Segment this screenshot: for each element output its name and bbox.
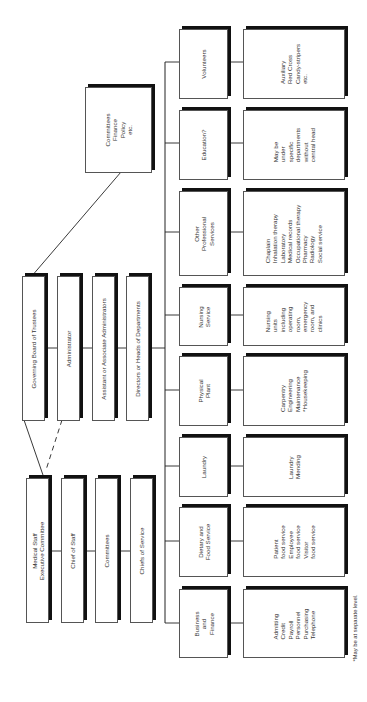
line: Laboratory <box>279 204 286 262</box>
line: under <box>279 128 286 162</box>
line: units <box>272 301 279 332</box>
committees-label: Committees <box>103 534 110 567</box>
line: Dietary and <box>196 524 203 560</box>
line: Telephone <box>309 608 316 639</box>
line: Carpentry <box>279 370 286 412</box>
line: Engineering <box>287 370 294 412</box>
line: Inhalation therapy <box>272 204 279 262</box>
dept-details: Laundry Mending <box>287 455 302 479</box>
footnote-text: *May be at separate level. <box>352 594 359 661</box>
administrator-box: Administrator <box>57 276 80 421</box>
administrator-label: Administrator <box>65 330 72 366</box>
line: Occupational therapy <box>294 204 301 262</box>
line: Education? <box>200 130 207 161</box>
line: Pharmacy <box>301 204 308 262</box>
line: Maintenance <box>294 370 301 412</box>
dept-details: Chaplain Inhalation therapy Laboratory M… <box>264 204 323 262</box>
line: Finance <box>111 113 118 146</box>
dept-name: Dietary and Food Service <box>196 524 211 560</box>
line: and <box>200 611 207 636</box>
line: Red Cross <box>287 44 294 84</box>
line: Volunteers <box>200 49 207 78</box>
dept-business-finance-box: Business and Finance <box>179 589 228 658</box>
line: without <box>301 128 308 162</box>
dept-dietary-details-box: Patient food service Employee food servi… <box>243 507 345 577</box>
line: Laundry <box>200 456 207 478</box>
dept-dietary-box: Dietary and Food Service <box>179 507 228 577</box>
line: Auxiliary <box>279 44 286 84</box>
line: Nursing <box>264 301 271 332</box>
line: Purchasing <box>301 608 308 639</box>
dept-name: Physical Plant <box>196 379 211 402</box>
committees-finance-box: Committees Finance Policy etc. <box>85 87 152 173</box>
dept-name: Volunteers <box>200 49 207 78</box>
line: Finance <box>207 611 214 636</box>
line: Social service <box>316 204 323 262</box>
line: Laundry <box>287 455 294 479</box>
dept-name: Education? <box>200 130 207 161</box>
dept-volunteers-box: Volunteers <box>179 29 228 99</box>
line: Medical Staff <box>30 521 37 579</box>
line: Executive Committee <box>38 521 45 579</box>
line: Food Service <box>204 524 211 560</box>
dept-laundry-box: Laundry <box>179 437 228 497</box>
assistant-administrators-label: Assistant or Associate Administrators <box>100 298 107 399</box>
line: Business <box>192 611 199 636</box>
line: clinics <box>316 301 323 332</box>
line: Patient <box>272 525 279 558</box>
footnote: *May be at separate level. <box>351 598 361 658</box>
line: including <box>279 301 286 332</box>
dept-details: Auxiliary Red Cross Candy-stripers etc. <box>279 44 309 84</box>
line: Committees <box>104 113 111 146</box>
line: Professional <box>200 216 207 250</box>
line: central head <box>309 128 316 162</box>
line: etc. <box>301 44 308 84</box>
line: Admitting <box>272 608 279 639</box>
governing-board-box: Governing Board of Trustees <box>22 276 45 421</box>
line: Candy-stripers <box>294 44 301 84</box>
chiefs-of-service-label: Chiefs of Service <box>138 527 145 574</box>
medical-staff-executive-committee-box: Medical Staff Executive Committee <box>26 478 49 623</box>
dept-details: Patient food service Employee food servi… <box>272 525 316 558</box>
line: specific <box>287 128 294 162</box>
directors-box: Directors or Heads of Departments <box>126 276 149 421</box>
line: operating <box>287 301 294 332</box>
line: Other <box>192 216 199 250</box>
line: room, <box>294 301 301 332</box>
line: food service <box>294 525 301 558</box>
dept-details: Carpentry Engineering Maintenance *House… <box>279 370 309 412</box>
chief-of-staff-label: Chief of Staff <box>69 533 76 569</box>
line: May be <box>272 128 279 162</box>
governing-board-label: Governing Board of Trustees <box>30 309 37 388</box>
line: Policy <box>119 113 126 146</box>
line: room, and <box>309 301 316 332</box>
line: Visitor <box>301 525 308 558</box>
dept-other-professional-details-box: Chaplain Inhalation therapy Laboratory M… <box>243 191 345 276</box>
line: Personnel <box>294 608 301 639</box>
line: Service <box>204 306 211 327</box>
medical-staff-label: Medical Staff Executive Committee <box>30 521 45 579</box>
line: Employee <box>287 525 294 558</box>
dept-name: Laundry <box>200 456 207 478</box>
dept-details: Nursing units including operating room, … <box>264 301 323 332</box>
line: Services <box>207 216 214 250</box>
dept-nursing-box: Nursing Service <box>179 287 228 346</box>
line: etc. <box>126 113 133 146</box>
assistant-administrators-box: Assistant or Associate Administrators <box>92 276 115 421</box>
dept-volunteers-details-box: Auxiliary Red Cross Candy-stripers etc. <box>243 29 345 99</box>
committees-box: Committees <box>95 478 118 623</box>
committees-finance-label: Committees Finance Policy etc. <box>104 113 134 146</box>
line: Chaplain <box>264 204 271 262</box>
dept-other-professional-box: Other Professional Services <box>179 191 228 276</box>
line: Medical records <box>287 204 294 262</box>
dept-name: Nursing Service <box>196 306 211 327</box>
line: emergency <box>301 301 308 332</box>
dept-details: May be under specific departments withou… <box>272 128 316 162</box>
dept-business-finance-details-box: Admitting Credit Payroll Personnel Purch… <box>243 589 345 658</box>
line: food service <box>309 525 316 558</box>
dept-physical-plant-box: Physical Plant <box>179 356 228 426</box>
chiefs-of-service-box: Chiefs of Service <box>130 478 153 623</box>
line: Credit <box>279 608 286 639</box>
dept-laundry-details-box: Laundry Mending <box>243 437 345 497</box>
dept-name: Business and Finance <box>192 611 214 636</box>
